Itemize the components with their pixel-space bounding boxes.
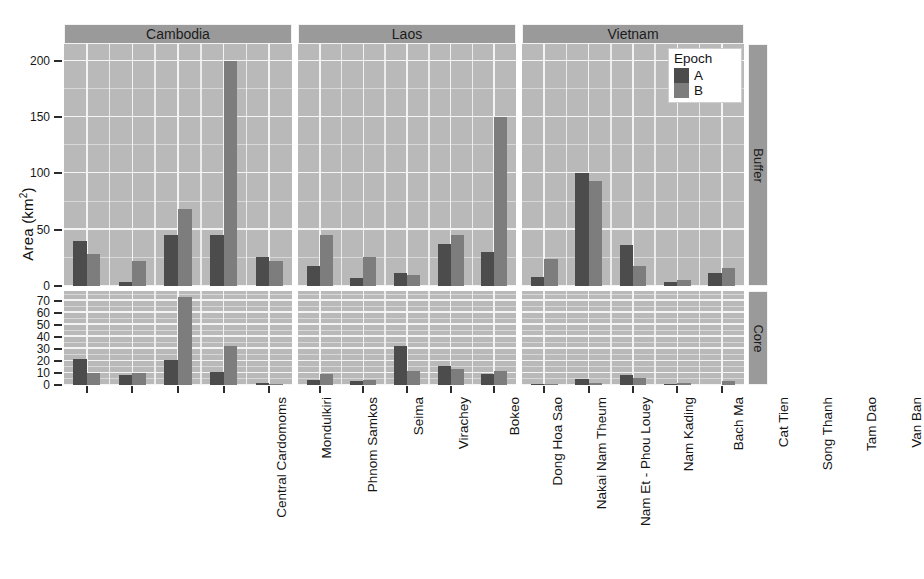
x-tick-label-central-cardomoms: Central Cardomoms — [274, 397, 289, 577]
facet-strip-label: Core — [751, 324, 766, 352]
bar-epoch-b — [677, 280, 690, 286]
gridline-vertical-minor — [154, 44, 156, 286]
x-tick-label-dong-hoa-sao: Dong Hoa Sao — [550, 397, 565, 577]
bar-epoch-a — [119, 282, 133, 287]
bar-epoch-b — [363, 380, 376, 385]
legend-item-b[interactable]: B — [674, 83, 735, 98]
x-tick-mark — [223, 386, 225, 393]
x-tick-label-cat-tien: Cat Tien — [776, 397, 791, 577]
x-tick-label-tam-dao: Tam Dao — [864, 397, 879, 577]
bar-epoch-b — [451, 235, 464, 286]
bar-epoch-a — [210, 235, 224, 286]
x-tick-label-seima: Seima — [411, 397, 426, 577]
gridline-vertical — [543, 44, 545, 286]
gridline-vertical-minor — [341, 44, 343, 286]
gridline-vertical-minor — [472, 291, 474, 385]
facet-strip-buffer: Buffer — [748, 44, 768, 286]
bar-epoch-b — [589, 181, 602, 286]
gridline-vertical — [677, 291, 679, 385]
bar-epoch-b — [178, 209, 192, 286]
y-tick-mark — [54, 116, 62, 118]
bar-epoch-b — [178, 297, 192, 385]
bar-epoch-a — [73, 359, 87, 386]
facet-strip-label: Cambodia — [146, 26, 210, 42]
bar-epoch-a — [438, 366, 451, 385]
gridline-vertical — [268, 44, 270, 286]
gridline-vertical-minor — [654, 44, 656, 286]
gridline-vertical-minor — [384, 44, 386, 286]
y-tick-label: 0 — [20, 279, 50, 293]
bar-epoch-b — [677, 383, 690, 385]
gridline-vertical-minor — [472, 44, 474, 286]
legend: EpochAB — [668, 48, 742, 103]
facet-strip-label: Laos — [392, 26, 422, 42]
panel-core-cambodia — [64, 291, 292, 385]
bar-epoch-b — [363, 257, 376, 286]
y-tick-label: 10 — [20, 366, 50, 380]
y-tick-label: 70 — [20, 294, 50, 308]
bar-epoch-a — [119, 375, 133, 385]
y-tick-mark — [54, 348, 62, 350]
y-tick-mark — [54, 60, 62, 62]
y-tick-mark — [54, 312, 62, 314]
gridline-vertical-minor — [109, 291, 111, 385]
bar-epoch-a — [575, 379, 588, 385]
y-tick-mark — [54, 372, 62, 374]
facet-strip-vietnam: Vietnam — [522, 24, 744, 44]
panel-buffer-laos — [298, 44, 516, 286]
bar-epoch-b — [132, 261, 146, 286]
y-tick-label: 60 — [20, 306, 50, 320]
x-tick-mark — [319, 386, 321, 393]
y-tick-label: 20 — [20, 354, 50, 368]
gridline-vertical — [132, 44, 134, 286]
bar-epoch-a — [531, 277, 544, 286]
panel-core-laos — [298, 291, 516, 385]
y-tick-mark — [54, 172, 62, 174]
bar-epoch-a — [350, 278, 363, 286]
bar-epoch-a — [307, 380, 320, 385]
bar-epoch-a — [481, 252, 494, 286]
x-tick-mark — [177, 386, 179, 393]
x-tick-mark — [543, 386, 545, 393]
bar-epoch-b — [494, 371, 507, 385]
gridline-vertical — [132, 291, 134, 385]
legend-key-b — [674, 83, 689, 98]
y-tick-label: 100 — [20, 166, 50, 180]
bar-epoch-b — [589, 383, 602, 385]
x-tick-label-bokeo: Bokeo — [507, 397, 522, 577]
gridline-vertical-minor — [428, 44, 430, 286]
bar-epoch-b — [451, 369, 464, 385]
legend-item-a[interactable]: A — [674, 68, 735, 83]
gridline-vertical — [363, 291, 365, 385]
bar-epoch-a — [256, 257, 270, 286]
bar-epoch-b — [494, 117, 507, 286]
x-tick-mark — [268, 386, 270, 393]
y-tick-label: 50 — [20, 223, 50, 237]
panel-buffer-cambodia — [64, 44, 292, 286]
gridline-vertical — [632, 291, 634, 385]
x-tick-mark — [362, 386, 364, 393]
x-tick-label-mondulkiri: Mondulkiri — [319, 397, 334, 577]
y-tick-mark — [54, 229, 62, 231]
bar-epoch-a — [438, 244, 451, 286]
bar-epoch-a — [664, 282, 677, 287]
facet-strip-laos: Laos — [298, 24, 516, 44]
x-tick-label-van-ban: Van Ban — [909, 397, 924, 577]
bar-epoch-a — [210, 372, 224, 385]
bar-epoch-a — [708, 273, 721, 287]
bar-epoch-b — [544, 384, 557, 385]
x-tick-mark — [721, 386, 723, 393]
bar-epoch-b — [633, 378, 646, 385]
bar-epoch-b — [320, 235, 333, 286]
legend-title: Epoch — [674, 52, 735, 66]
bar-epoch-a — [664, 384, 677, 385]
legend-key-a — [674, 68, 689, 83]
bar-epoch-a — [575, 173, 588, 286]
bar-epoch-a — [73, 241, 87, 286]
bar-epoch-b — [722, 381, 735, 385]
y-tick-mark — [54, 285, 62, 287]
bar-epoch-b — [132, 373, 146, 385]
gridline-vertical-minor — [566, 291, 568, 385]
x-tick-label-song-thanh: Song Thanh — [820, 397, 835, 577]
gridline-vertical-minor — [246, 291, 248, 385]
